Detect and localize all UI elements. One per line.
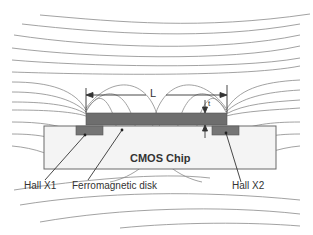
field-lines-figure <box>0 0 313 235</box>
hall-sensor-x1 <box>76 126 103 135</box>
label-length: L <box>150 87 156 99</box>
label-cmos-chip: CMOS Chip <box>130 152 191 164</box>
label-thickness: t <box>208 99 210 108</box>
label-hall-x1: Hall X1 <box>24 180 56 191</box>
ferromagnetic-disk <box>86 113 227 125</box>
label-ferromagnetic-disk: Ferromagnetic disk <box>72 180 157 191</box>
diagram-canvas: L t CMOS Chip Hall X1 Ferromagnetic disk… <box>0 0 313 235</box>
label-hall-x2: Hall X2 <box>232 180 264 191</box>
